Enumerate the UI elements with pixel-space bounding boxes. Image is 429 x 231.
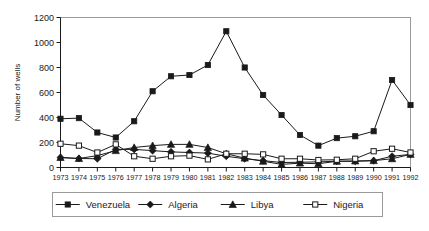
- series-line: [61, 31, 411, 145]
- chart-canvas: 020040060080010001200 197319741975197619…: [0, 0, 429, 231]
- y-tick-label: 1000: [34, 38, 54, 48]
- marker-filled-square: [261, 92, 266, 97]
- x-tick-label: 1982: [218, 173, 234, 182]
- marker-open-square: [224, 151, 229, 156]
- x-tick-label: 1975: [89, 173, 105, 182]
- marker-filled-square: [187, 72, 192, 77]
- marker-filled-square: [113, 135, 118, 140]
- marker-open-square: [150, 156, 155, 161]
- marker-open-square: [76, 143, 81, 148]
- marker-filled-square: [168, 74, 173, 79]
- x-tick-label: 1981: [200, 173, 216, 182]
- y-tick-label: 1200: [34, 13, 54, 23]
- marker-filled-square: [224, 29, 229, 34]
- marker-open-square: [334, 157, 339, 162]
- x-tick-label: 1977: [126, 173, 142, 182]
- y-tick-label: 800: [39, 63, 54, 73]
- marker-filled-square: [371, 129, 376, 134]
- marker-open-square: [261, 152, 266, 157]
- marker-open-square: [205, 157, 210, 162]
- marker-open-square: [168, 154, 173, 159]
- marker-open-square: [279, 156, 284, 161]
- marker-filled-square: [316, 143, 321, 148]
- y-axis: 020040060080010001200: [34, 13, 61, 173]
- marker-filled-square: [58, 116, 63, 121]
- data-series-group: [57, 29, 414, 168]
- marker-filled-square: [353, 134, 358, 139]
- marker-filled-square: [132, 119, 137, 124]
- x-tick-label: 1985: [274, 173, 290, 182]
- legend-label: Venezuela: [86, 199, 131, 210]
- x-tick-label: 1987: [310, 173, 326, 182]
- y-axis-title: Number of wells: [13, 64, 22, 121]
- x-tick-label: 1973: [53, 173, 69, 182]
- x-tick-label: 1978: [145, 173, 161, 182]
- marker-open-square: [297, 156, 302, 161]
- marker-filled-square: [334, 136, 339, 141]
- marker-filled-square: [65, 202, 70, 207]
- legend-label: Nigeria: [333, 199, 364, 210]
- marker-open-square: [187, 153, 192, 158]
- legend-label: Algeria: [168, 199, 198, 210]
- x-tick-label: 1989: [347, 173, 363, 182]
- y-tick-label: 400: [39, 113, 54, 123]
- marker-open-square: [58, 141, 63, 146]
- x-tick-label: 1991: [384, 173, 400, 182]
- marker-filled-square: [150, 89, 155, 94]
- series-venezuela: [58, 29, 413, 149]
- line-chart: 020040060080010001200 197319741975197619…: [0, 0, 429, 231]
- x-tick-label: 1983: [237, 173, 253, 182]
- x-tick-label: 1986: [292, 173, 308, 182]
- marker-filled-square: [76, 116, 81, 121]
- x-tick-label: 1990: [366, 173, 382, 182]
- x-tick-label: 1988: [329, 173, 345, 182]
- marker-filled-square: [95, 130, 100, 135]
- marker-open-square: [242, 151, 247, 156]
- x-tick-label: 1992: [403, 173, 419, 182]
- marker-filled-square: [205, 62, 210, 67]
- marker-filled-square: [279, 112, 284, 117]
- marker-open-square: [316, 157, 321, 162]
- marker-open-square: [408, 150, 413, 155]
- x-tick-label: 1980: [181, 173, 197, 182]
- marker-open-square: [95, 150, 100, 155]
- legend-label: Libya: [251, 199, 274, 210]
- marker-filled-square: [297, 132, 302, 137]
- y-axis-title-label: Number of wells: [13, 64, 22, 121]
- x-tick-label: 1984: [255, 173, 271, 182]
- marker-filled-square: [242, 65, 247, 70]
- marker-filled-square: [408, 102, 413, 107]
- marker-open-square: [371, 149, 376, 154]
- x-tick-label: 1979: [163, 173, 179, 182]
- x-tick-label: 1976: [108, 173, 124, 182]
- marker-open-square: [113, 142, 118, 147]
- marker-open-square: [132, 154, 137, 159]
- x-tick-label: 1974: [71, 173, 87, 182]
- x-axis: 1973197419751976197719781979198019811982…: [53, 168, 419, 183]
- marker-open-square: [389, 146, 394, 151]
- y-tick-label: 600: [39, 88, 54, 98]
- y-tick-label: 0: [49, 163, 54, 173]
- marker-open-square: [353, 156, 358, 161]
- marker-filled-square: [389, 77, 394, 82]
- marker-open-square: [313, 202, 318, 207]
- chart-legend: VenezuelaAlgeriaLibyaNigeria: [53, 193, 383, 217]
- y-tick-label: 200: [39, 138, 54, 148]
